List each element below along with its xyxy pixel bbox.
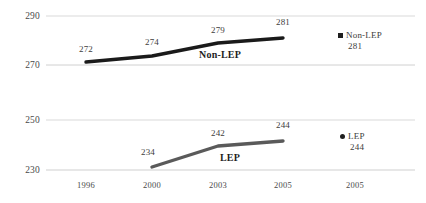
inline-series-label-non-lep: Non-LEP bbox=[180, 49, 260, 60]
y-axis-tick-250: 250 bbox=[8, 115, 40, 125]
dual-line-chart-figure: 290 270 272 274 279 281 Non-LEP Non-LEP … bbox=[0, 0, 426, 203]
data-label-non-lep-2005: 281 bbox=[263, 17, 303, 27]
legend-label-lep: LEP bbox=[348, 131, 365, 142]
inline-series-label-lep: LEP bbox=[190, 152, 270, 163]
legend-marker-square-icon bbox=[338, 33, 343, 38]
y-axis-tick-230: 230 bbox=[8, 165, 40, 175]
x-axis-tick-2005-legend-column: 2005 bbox=[325, 180, 385, 190]
x-axis-tick-2000: 2000 bbox=[122, 180, 182, 190]
data-label-lep-2003: 242 bbox=[198, 128, 238, 138]
data-label-non-lep-1996: 272 bbox=[66, 44, 106, 54]
data-label-lep-2005: 244 bbox=[263, 120, 303, 130]
x-axis-tick-2003: 2003 bbox=[188, 180, 248, 190]
chart-panel-non-lep: 290 270 272 274 279 281 Non-LEP Non-LEP … bbox=[0, 0, 426, 101]
data-label-non-lep-2000: 274 bbox=[132, 37, 172, 47]
y-axis-tick-290: 290 bbox=[8, 11, 40, 21]
x-axis-tick-2005: 2005 bbox=[253, 180, 313, 190]
data-label-non-lep-2003: 279 bbox=[198, 25, 238, 35]
data-label-lep-2000: 234 bbox=[128, 147, 168, 157]
legend-marker-circle-icon bbox=[340, 134, 345, 139]
y-axis-tick-270: 270 bbox=[8, 60, 40, 70]
legend-non-lep: Non-LEP 281 bbox=[338, 30, 382, 51]
legend-value-lep: 244 bbox=[340, 142, 365, 153]
x-axis-tick-1996: 1996 bbox=[56, 180, 116, 190]
legend-lep: LEP 244 bbox=[340, 131, 365, 152]
legend-label-non-lep: Non-LEP bbox=[346, 30, 382, 41]
chart-panel-lep: 250 230 234 242 244 LEP LEP 244 1996 200… bbox=[0, 101, 426, 203]
legend-value-non-lep: 281 bbox=[338, 41, 382, 52]
